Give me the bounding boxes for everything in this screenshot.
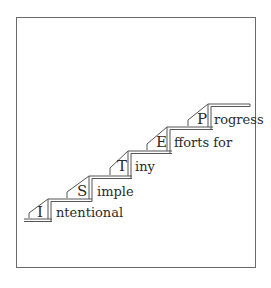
step-2-text: imple — [97, 184, 134, 199]
step-4-letter: E — [156, 133, 167, 151]
step-3-letter: T — [117, 157, 127, 175]
step-1-letter: I — [37, 203, 43, 221]
step-4-text: fforts for — [174, 135, 233, 150]
step-5-text: rogress — [214, 112, 264, 127]
step-5-letter: P — [197, 110, 207, 128]
step-2-letter: S — [77, 182, 87, 200]
step-1-text: ntentional — [56, 205, 123, 220]
step-5: P rogress — [197, 110, 264, 128]
step-3-text: iny — [135, 159, 156, 174]
step-3: T iny — [117, 157, 156, 175]
step-2: S imple — [77, 182, 134, 200]
step-1: I ntentional — [37, 203, 123, 221]
step-4: E fforts for — [156, 133, 233, 151]
staircase-diagram: I ntentional S imple T iny E fforts for … — [0, 0, 271, 288]
